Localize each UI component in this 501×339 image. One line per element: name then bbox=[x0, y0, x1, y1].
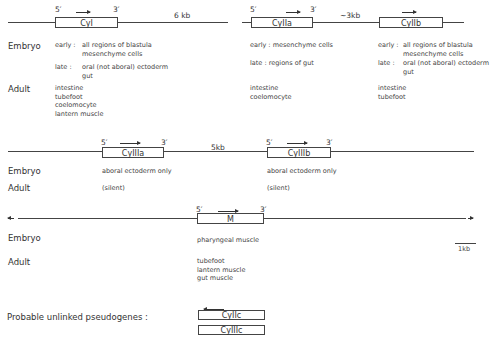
scale-bar bbox=[455, 243, 476, 244]
expression-text: tubefoot bbox=[55, 93, 103, 102]
embryo-label: Embryo bbox=[8, 166, 41, 176]
expression-text: coelomocyte bbox=[55, 101, 103, 110]
arrow-right-icon bbox=[218, 211, 238, 212]
expression-text: gut bbox=[82, 72, 168, 81]
arrow-right-icon bbox=[76, 12, 90, 13]
late-label: late : bbox=[55, 63, 72, 71]
expression-text: all regions of blastula bbox=[82, 41, 152, 50]
arrow-right-icon bbox=[402, 12, 416, 13]
adult-label: Adult bbox=[8, 257, 30, 267]
adult-label: Adult bbox=[8, 84, 30, 94]
expression-text: aboral ectoderm only bbox=[102, 167, 172, 176]
expression-text: (silent) bbox=[267, 184, 290, 193]
scale-label: 1kb bbox=[458, 245, 470, 254]
gene-box-cyiiic: CyIIIc bbox=[198, 325, 265, 335]
gene-box-cyiia: CyIIa bbox=[251, 17, 313, 28]
arrow-left-icon bbox=[8, 218, 14, 219]
three-prime-label: 3′ bbox=[113, 5, 119, 14]
expression-text: all regions of blastula bbox=[403, 41, 473, 50]
expression-text: oral (not aboral) ectoderm bbox=[403, 59, 489, 68]
expression-text: intestine bbox=[250, 84, 292, 93]
spacer-label: 6 kb bbox=[174, 11, 190, 20]
embryo-label: Embryo bbox=[8, 233, 41, 243]
gene-box-cyiic: CyIIc bbox=[198, 310, 265, 320]
expression-text: pharyngeal muscle bbox=[197, 236, 259, 245]
three-prime-label: 3′ bbox=[310, 5, 316, 14]
expression-text: lantern muscle bbox=[197, 266, 245, 275]
five-prime-label: 5′ bbox=[266, 138, 272, 147]
expression-text: coelomocyte bbox=[250, 93, 292, 102]
early-label: early : bbox=[55, 41, 76, 49]
expression-text: mesenchyme cells bbox=[82, 50, 152, 59]
gene-box-cyiib: CyIIb bbox=[379, 17, 443, 28]
expression-text: tubefoot bbox=[378, 93, 406, 102]
pseudogenes-label: Probable unlinked pseudogenes : bbox=[7, 312, 148, 322]
expression-text: mesenchyme cells bbox=[273, 41, 333, 49]
expression-text: mesenchyme cells bbox=[403, 50, 473, 59]
five-prime-label: 5′ bbox=[250, 5, 256, 14]
gene-box-cyiiib: CyIIIb bbox=[267, 147, 331, 158]
gene-box-cyi: CyI bbox=[55, 17, 118, 28]
arrow-right-icon bbox=[287, 143, 307, 144]
three-prime-label: 3′ bbox=[326, 138, 332, 147]
late-label: late : bbox=[378, 59, 395, 67]
chromosome-line bbox=[8, 151, 474, 152]
spacer-label: 5kb bbox=[211, 143, 225, 152]
five-prime-label: 5′ bbox=[55, 5, 61, 14]
expression-text: intestine bbox=[378, 84, 406, 93]
five-prime-label: 5′ bbox=[101, 138, 107, 147]
expression-text: tubefoot bbox=[197, 257, 245, 266]
expression-text: gut bbox=[403, 68, 489, 77]
arrow-right-icon bbox=[286, 12, 300, 13]
expression-text: intestine bbox=[55, 84, 103, 93]
early-label: early : bbox=[378, 41, 399, 49]
early-label: early : bbox=[250, 41, 271, 49]
adult-label: Adult bbox=[8, 183, 30, 193]
chromosome-line bbox=[8, 22, 228, 23]
late-label: late : bbox=[250, 59, 267, 67]
three-prime-label: 3′ bbox=[161, 138, 167, 147]
spacer-label: ~3kb bbox=[340, 11, 360, 20]
gene-box-m: M bbox=[197, 213, 264, 224]
arrow-right-icon bbox=[468, 218, 473, 219]
expression-text: regions of gut bbox=[269, 59, 314, 67]
expression-text: oral (not aboral) ectoderm bbox=[82, 63, 168, 72]
expression-text: gut muscle bbox=[197, 274, 245, 283]
expression-text: (silent) bbox=[102, 184, 125, 193]
expression-text: aboral ectoderm only bbox=[267, 167, 337, 176]
embryo-label: Embryo bbox=[8, 41, 41, 51]
arrow-right-icon bbox=[120, 143, 140, 144]
expression-text: lantern muscle bbox=[55, 110, 103, 119]
gene-box-cyiiia: CyIIIa bbox=[102, 147, 164, 158]
